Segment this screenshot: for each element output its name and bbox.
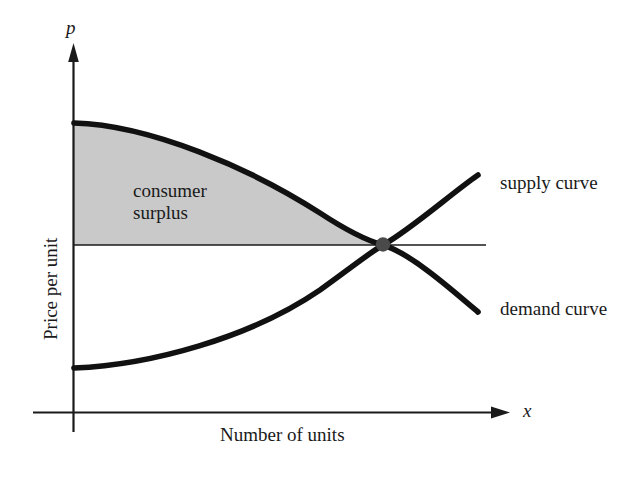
y-axis-title: Price per unit: [40, 238, 62, 340]
consumer-surplus-label: consumer surplus: [133, 180, 207, 224]
supply-curve-label: supply curve: [500, 172, 598, 194]
demand-curve-label: demand curve: [500, 298, 607, 320]
consumer-surplus-label-line1: consumer: [133, 180, 207, 202]
consumer-surplus-label-line2: surplus: [133, 202, 207, 224]
consumer-surplus-figure: p x Price per unit Number of units consu…: [0, 0, 626, 477]
x-axis-variable-label: x: [523, 400, 531, 422]
x-axis: [33, 407, 510, 419]
x-axis-title: Number of units: [220, 424, 345, 446]
y-axis-variable-label: p: [66, 17, 76, 39]
equilibrium-point-dot: [376, 237, 390, 251]
diagram-canvas: [0, 0, 626, 477]
